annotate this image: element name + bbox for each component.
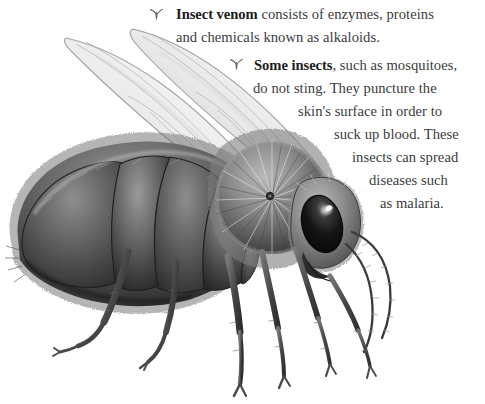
insect-bullet-icon [229, 58, 244, 71]
paragraph-2-line-7-rest: as malaria. [380, 195, 444, 211]
paragraph-2-line-5: insects can spread [352, 150, 458, 165]
paragraph-2-line-2: do not sting. They puncture the [253, 81, 437, 96]
bee-head [288, 172, 395, 352]
paragraph-2-line-3-rest: skin's surface in order to [298, 103, 442, 119]
paragraph-2-line-4-rest: suck up blood. These [334, 126, 459, 142]
paragraph-1-line-2-rest: and chemicals known as alkaloids. [176, 29, 380, 45]
lead-in-insect-venom: Insect venom [176, 6, 258, 22]
paragraph-1-line-2: and chemicals known as alkaloids. [176, 30, 380, 45]
insect-bullet-icon [149, 8, 164, 21]
paragraph-2-line-1-rest: , such as mosquitoes, [332, 57, 457, 73]
paragraph-2-line-4: suck up blood. These [334, 127, 459, 142]
paragraph-2-line-7: as malaria. [380, 196, 444, 211]
lead-in-some-insects: Some insects [254, 57, 332, 73]
paragraph-2-line-2-rest: do not sting. They puncture the [253, 80, 437, 96]
page-root: Insect venom consists of enzymes, protei… [0, 0, 485, 404]
paragraph-2-line-5-rest: insects can spread [352, 149, 458, 165]
paragraph-2-line-6-rest: diseases such [369, 172, 448, 188]
paragraph-2-line-1: Some insects, such as mosquitoes, [254, 58, 457, 73]
paragraph-2-line-6: diseases such [369, 173, 448, 188]
paragraph-2-line-3: skin's surface in order to [298, 104, 442, 119]
paragraph-1-line-1-rest: consists of enzymes, proteins [258, 6, 434, 22]
paragraph-1-line-1: Insect venom consists of enzymes, protei… [176, 7, 434, 22]
